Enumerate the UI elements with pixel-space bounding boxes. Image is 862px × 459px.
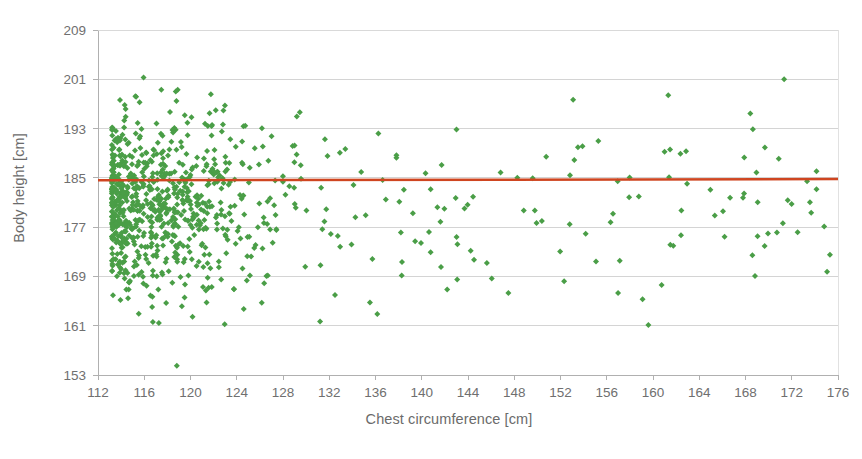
data-point [375,130,381,136]
data-point [207,265,213,271]
data-point [437,219,443,225]
data-point [160,243,166,249]
data-point [155,140,161,146]
data-point [204,148,210,154]
data-point [186,236,192,242]
data-point [498,169,504,175]
data-point [410,210,416,216]
data-point [259,245,265,251]
data-point [412,238,418,244]
data-point [200,264,206,270]
data-point [135,234,141,240]
data-point [117,97,123,103]
data-point [271,202,277,208]
data-point [749,252,755,258]
data-point [286,183,292,189]
data-point [183,151,189,157]
data-point [110,292,116,298]
data-point [665,92,671,98]
data-point [206,251,212,257]
data-point [579,143,585,149]
data-point [521,208,527,214]
data-point [109,268,115,274]
data-point [214,221,220,227]
data-point [222,321,228,327]
data-point [185,132,191,138]
data-point [163,300,169,306]
data-point [218,199,224,205]
data-point [401,187,407,193]
data-point [369,256,375,262]
data-point [468,248,474,254]
data-point [247,165,253,171]
data-point [322,136,328,142]
data-point [273,212,279,218]
data-point [454,234,460,240]
data-point [399,259,405,265]
data-point [239,266,245,272]
data-point [813,168,819,174]
data-point [122,102,128,108]
data-point [259,125,265,131]
data-point [212,161,218,167]
data-point [173,147,179,153]
data-point [677,151,683,157]
data-point [321,218,327,224]
data-point [428,249,434,255]
data-point [142,252,148,258]
data-point [244,277,250,283]
data-point [207,110,213,116]
data-point [678,208,684,214]
regression-trendline [98,179,838,180]
data-point [132,147,138,153]
data-point [712,213,718,219]
data-point [776,156,782,162]
data-point [684,181,690,187]
data-point [325,153,331,159]
data-point [350,182,356,188]
data-point [570,97,576,103]
data-point [781,76,787,82]
data-point [259,300,265,306]
data-point [561,278,567,284]
data-point [752,273,758,279]
data-point [182,112,188,118]
data-point [454,241,460,247]
data-point [454,126,460,132]
data-point [182,282,188,288]
data-point [166,147,172,153]
data-point [808,210,814,216]
data-point [453,195,459,201]
data-point [129,161,135,167]
data-point [233,241,239,247]
data-point [158,87,164,93]
data-point [211,147,217,153]
data-point [256,200,262,206]
gridlines [98,30,838,326]
data-point [567,221,573,227]
data-point [154,186,160,192]
data-point [149,304,155,310]
data-point [349,241,355,247]
data-point [741,191,747,197]
data-point [201,252,207,258]
data-point [755,233,761,239]
data-point [241,212,247,218]
data-point [226,160,232,166]
data-point [727,195,733,201]
data-point [261,280,267,286]
data-point [155,286,161,292]
data-point [678,232,684,238]
data-point [178,139,184,145]
data-point [337,150,343,156]
data-point [137,145,143,151]
data-point [399,273,405,279]
data-point [363,212,369,218]
data-point [139,126,145,132]
data-point [216,264,222,270]
data-point [747,111,753,117]
data-point [231,286,237,292]
data-point [323,206,329,212]
data-point [213,107,219,113]
data-point [228,204,234,210]
